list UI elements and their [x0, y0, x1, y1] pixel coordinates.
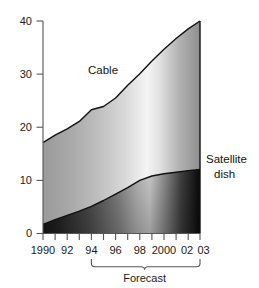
series-label-cable: Cable	[88, 64, 118, 76]
y-tick-label-20: 20	[20, 121, 32, 133]
stacked-area-chart: 0 10 20 30 40 1990 92 94 96 98 2000 02 0…	[0, 0, 259, 288]
y-tick-label-30: 30	[20, 68, 32, 80]
plot-areas	[43, 21, 200, 234]
x-tick-label-1998: 98	[134, 244, 146, 256]
x-tick-label-2002: 02	[181, 244, 193, 256]
x-tick-label-2000: 2000	[152, 244, 176, 256]
y-tick-label-40: 40	[20, 15, 32, 27]
x-tick-label-1992: 92	[61, 244, 73, 256]
x-tick-label-1996: 96	[109, 244, 121, 256]
y-tick-label-0: 0	[26, 227, 32, 239]
forecast-bracket: Forecast	[91, 259, 200, 284]
y-axis-tick-labels: 0 10 20 30 40	[20, 15, 32, 240]
chart-canvas: 0 10 20 30 40 1990 92 94 96 98 2000 02 0…	[0, 0, 259, 288]
x-axis-tick-labels: 1990 92 94 96 98 2000 02 03	[31, 244, 210, 256]
forecast-label: Forecast	[123, 272, 166, 284]
x-tick-label-1994: 94	[85, 244, 97, 256]
y-tick-label-10: 10	[20, 174, 32, 186]
x-tick-label-1990: 1990	[31, 244, 55, 256]
forecast-bracket-path	[91, 259, 200, 270]
series-label-satellite-line1: Satellite	[206, 153, 247, 165]
x-tick-label-2003: 03	[197, 244, 209, 256]
series-label-satellite-line2: dish	[214, 168, 235, 180]
